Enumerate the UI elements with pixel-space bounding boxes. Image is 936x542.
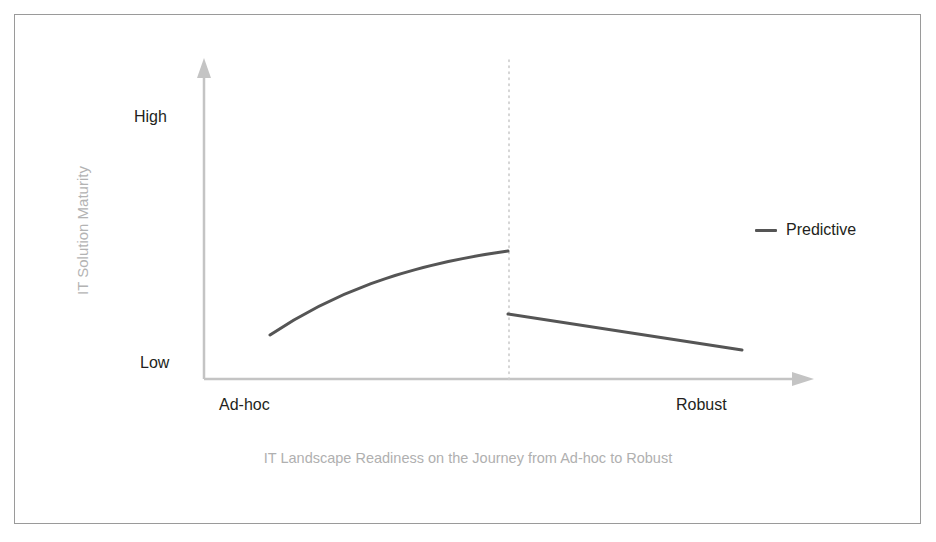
x-axis-arrow-icon xyxy=(792,372,814,386)
chart-plot-area: High Low Ad-hoc Robust IT Solution Matur… xyxy=(0,0,936,542)
series-predictive-declining-line xyxy=(508,314,742,350)
chart-caption: IT Landscape Readiness on the Journey fr… xyxy=(0,450,936,466)
legend-label-predictive: Predictive xyxy=(786,221,856,239)
legend-line-swatch-icon xyxy=(755,229,777,232)
chart-legend: Predictive xyxy=(755,221,856,239)
y-axis-tick-high: High xyxy=(134,108,167,126)
y-axis-tick-low: Low xyxy=(140,354,169,372)
x-axis-tick-robust: Robust xyxy=(676,396,727,414)
y-axis-arrow-icon xyxy=(197,58,211,78)
series-predictive-rising-curve xyxy=(270,251,508,335)
x-axis-tick-ad-hoc: Ad-hoc xyxy=(219,396,270,414)
y-axis-title: IT Solution Maturity xyxy=(74,141,91,321)
